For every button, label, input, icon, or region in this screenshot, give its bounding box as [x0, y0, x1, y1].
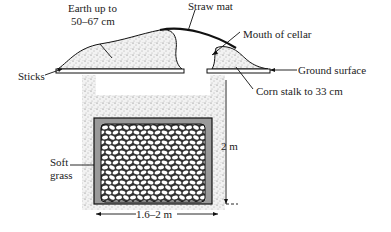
label-mouth: Mouth of cellar	[243, 28, 312, 40]
earth-mound-left	[58, 30, 182, 69]
label-sticks: Sticks	[18, 70, 45, 82]
label-straw-mat: Straw mat	[188, 0, 233, 12]
label-grass: grass	[50, 169, 73, 181]
pit-shaft	[96, 75, 210, 95]
label-soft: Soft	[50, 156, 68, 168]
label-earth-line1: Earth up to	[68, 2, 117, 14]
sticks-left	[56, 69, 184, 73]
cellar-diagram: Earth up to 50–67 cm Straw mat Mouth of …	[0, 0, 391, 232]
stored-tubers	[101, 124, 205, 202]
earth-mound-right	[212, 47, 268, 69]
label-width: 1.6–2 m	[136, 208, 173, 220]
label-height: 2 m	[221, 140, 238, 152]
label-earth-line2: 50–67 cm	[71, 15, 115, 27]
label-corn-stalk: Corn stalk to 33 cm	[256, 85, 343, 97]
label-ground-surface: Ground surface	[298, 64, 366, 76]
